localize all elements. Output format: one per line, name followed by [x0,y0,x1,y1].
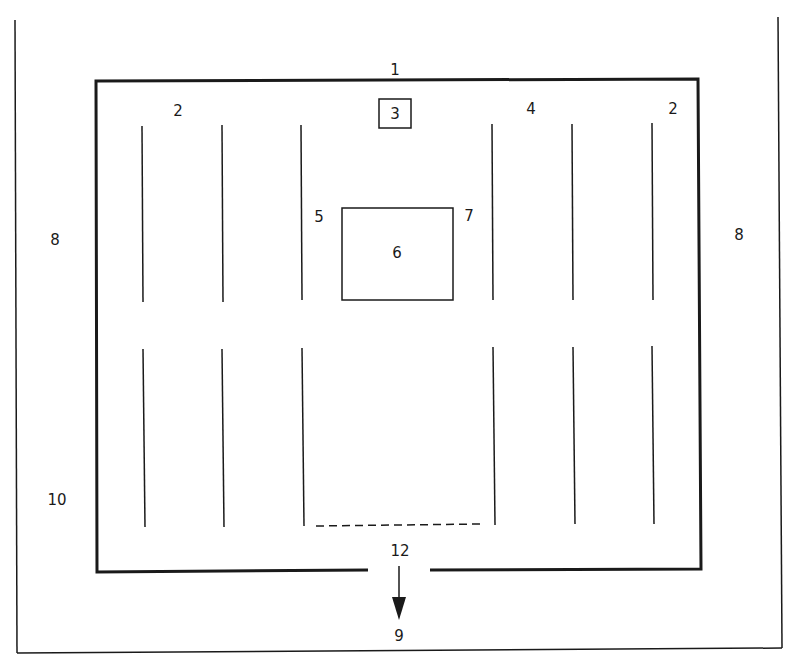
label-10: 10 [47,491,66,509]
label-1: 1 [390,61,400,79]
label-7: 7 [464,207,474,225]
label-2: 2 [173,102,183,120]
floor-plan-diagram: 1 2 3 4 2 5 7 6 8 8 10 12 9 [0,0,793,669]
label-12: 12 [390,542,409,560]
partitions-upper [142,123,653,302]
exit-arrow-icon [392,566,406,620]
partitions-lower [143,346,654,527]
label-8-left: 8 [50,231,60,249]
label-3: 3 [390,105,400,123]
label-6: 6 [392,244,402,262]
labels: 1 2 3 4 2 5 7 6 8 8 10 12 9 [47,61,743,645]
label-5: 5 [314,208,324,226]
inner-enclosure [96,79,701,572]
label-4: 4 [526,100,536,118]
label-8-right: 8 [734,226,744,244]
label-9: 9 [394,627,404,645]
label-2-right: 2 [668,100,678,118]
dashed-line [316,524,480,526]
